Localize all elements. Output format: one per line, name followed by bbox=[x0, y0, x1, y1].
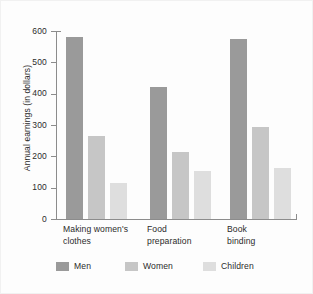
y-axis-tick bbox=[51, 31, 57, 32]
bar-children-group-2 bbox=[194, 171, 211, 219]
bar-children-group-1 bbox=[110, 183, 127, 219]
x-axis-group-label-3: Book binding bbox=[227, 224, 255, 247]
bar-women-group-1 bbox=[88, 136, 105, 219]
bar-men-group-1 bbox=[66, 37, 83, 219]
legend-item-women[interactable]: Women bbox=[125, 261, 173, 271]
y-axis-tick bbox=[51, 188, 57, 189]
y-axis-tick-label: 600 bbox=[0, 27, 47, 36]
bar-men-group-2 bbox=[150, 87, 167, 219]
y-axis-tick bbox=[51, 156, 57, 157]
x-axis-end-cap-icon bbox=[296, 214, 297, 220]
legend-label: Women bbox=[143, 261, 173, 271]
legend-swatch-icon bbox=[56, 262, 69, 271]
legend-label: Men bbox=[74, 261, 91, 271]
bar-women-group-2 bbox=[172, 152, 189, 219]
legend-label: Children bbox=[221, 261, 254, 271]
bar-men-group-3 bbox=[230, 39, 247, 219]
legend-item-men[interactable]: Men bbox=[56, 261, 91, 271]
legend-swatch-icon bbox=[203, 262, 216, 271]
legend-swatch-icon bbox=[125, 262, 138, 271]
chart-legend: MenWomenChildren bbox=[56, 261, 286, 271]
y-axis-tick bbox=[51, 125, 57, 126]
x-axis-group-label-1: Making women's clothes bbox=[63, 224, 128, 247]
bar-children-group-3 bbox=[274, 168, 291, 219]
x-axis-line bbox=[56, 219, 297, 220]
y-axis-tick bbox=[51, 94, 57, 95]
y-axis-tick bbox=[51, 62, 57, 63]
y-axis-title: Annual earnings (in dollars) bbox=[22, 38, 32, 198]
chart-figure: 6005004003002001000 Annual earnings (in … bbox=[0, 0, 313, 294]
bar-women-group-3 bbox=[252, 127, 269, 219]
chart-plot-area: 6005004003002001000 Annual earnings (in … bbox=[0, 0, 313, 294]
legend-item-children[interactable]: Children bbox=[203, 261, 254, 271]
x-axis-group-label-2: Food preparation bbox=[147, 224, 192, 247]
y-axis-tick-label: 0 bbox=[0, 215, 47, 224]
